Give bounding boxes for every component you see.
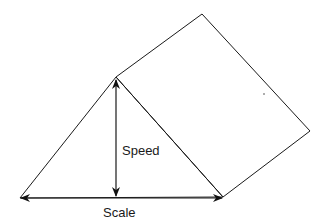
square-shape	[116, 14, 310, 197]
scale-label: Scale	[103, 206, 136, 219]
triangle-shape	[20, 77, 223, 198]
dot-mark	[263, 93, 265, 95]
speed-label: Speed	[122, 144, 160, 157]
diagram-canvas	[0, 0, 326, 224]
